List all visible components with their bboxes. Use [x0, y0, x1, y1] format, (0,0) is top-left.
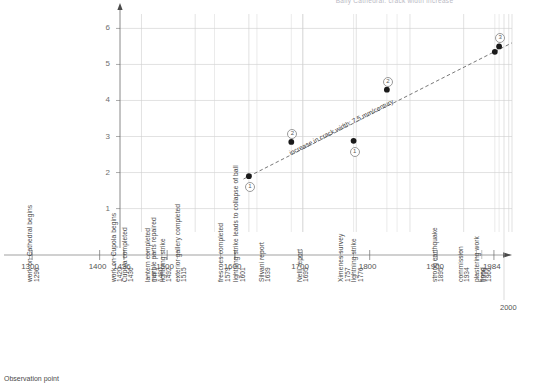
event-label: lightning strike [159, 238, 166, 282]
data-point-number: 1 [245, 182, 255, 192]
event-year: 1515 [180, 267, 187, 282]
y-tick-label: 6 [94, 23, 110, 32]
event-year: 1776 [357, 267, 364, 282]
end-year-label: 2000 [500, 303, 517, 312]
y-tick-label: 4 [94, 95, 110, 104]
event-label: Cupola completed [121, 227, 128, 282]
event-label: lightning strike leads to collapse of ba… [232, 165, 239, 282]
event-year: 1601 [239, 267, 246, 282]
event-label: commission [457, 246, 464, 282]
y-tick-label: 1 [94, 204, 110, 213]
y-tick-label: 3 [94, 132, 110, 141]
event-label: work on Cathedral begins [26, 205, 33, 282]
event-year: 1492 [165, 267, 172, 282]
event-label: exterior gallery completed [174, 204, 181, 282]
event-label: lightning strike [350, 238, 357, 282]
event-year: 1296 [33, 267, 40, 282]
observation-point-label: Observation point [4, 375, 59, 382]
event-label: Nelli report [296, 249, 303, 282]
event-year: 1966 [485, 267, 492, 282]
x-tick-label: 1400 [89, 262, 107, 271]
data-point-number: 2 [383, 77, 393, 87]
event-label: work on Cupola begins [110, 213, 117, 282]
data-point-number: 1 [350, 147, 360, 157]
event-label: Silvani report [258, 242, 265, 282]
event-year: 1436 [127, 267, 134, 282]
event-label: Ximenes survey [337, 234, 344, 282]
plot-svg [0, 0, 539, 385]
event-label: flood [479, 267, 486, 282]
y-tick-label: 5 [94, 59, 110, 68]
event-year: 1895 [437, 267, 444, 282]
chart-canvas: Baily Cathedral: crack width increase 12… [0, 0, 539, 385]
event-label: strong earthquake [431, 227, 438, 282]
event-year: 1639 [264, 267, 271, 282]
y-tick-label: 2 [94, 168, 110, 177]
event-label: frescoes completed [217, 223, 224, 282]
event-year: 1934 [463, 267, 470, 282]
event-year: 1695 [302, 267, 309, 282]
event-label: marble parts repaired [150, 217, 157, 282]
event-year: 1579 [224, 267, 231, 282]
